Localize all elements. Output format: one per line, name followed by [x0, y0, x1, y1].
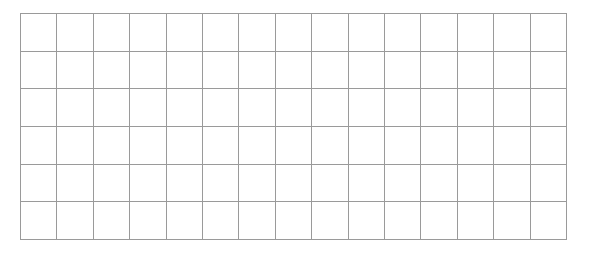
grid-cell: [130, 127, 166, 165]
grid-cell: [458, 165, 494, 203]
grid-cell: [276, 89, 312, 127]
grid-cell: [458, 89, 494, 127]
grid-cell: [57, 89, 93, 127]
grid-cell: [167, 89, 203, 127]
grid-cell: [167, 52, 203, 90]
grid-cell: [531, 202, 567, 240]
grid-cell: [276, 202, 312, 240]
grid-cell: [57, 202, 93, 240]
grid-cell: [276, 127, 312, 165]
grid-cell: [57, 52, 93, 90]
grid-cell: [494, 89, 530, 127]
grid-cell: [276, 165, 312, 203]
grid-cell: [94, 165, 130, 203]
grid-cell: [239, 52, 275, 90]
grid-cell: [130, 14, 166, 52]
grid-cell: [94, 127, 130, 165]
grid-cell: [94, 202, 130, 240]
grid-cell: [21, 202, 57, 240]
grid-cell: [21, 127, 57, 165]
grid-cell: [531, 52, 567, 90]
grid-cell: [312, 127, 348, 165]
grid-cell: [531, 165, 567, 203]
grid-cell: [276, 52, 312, 90]
grid-cell: [421, 127, 457, 165]
grid-cell: [94, 14, 130, 52]
grid-cell: [57, 14, 93, 52]
grid-cell: [203, 52, 239, 90]
grid-cell: [458, 127, 494, 165]
grid-cell: [21, 89, 57, 127]
grid-cell: [239, 127, 275, 165]
grid-cell: [130, 165, 166, 203]
grid-cell: [421, 165, 457, 203]
grid-cell: [421, 14, 457, 52]
grid-cell: [94, 89, 130, 127]
grid-cell: [239, 165, 275, 203]
grid-cell: [494, 52, 530, 90]
grid-cell: [57, 165, 93, 203]
grid-cell: [203, 165, 239, 203]
grid-cell: [421, 202, 457, 240]
grid-cell: [349, 14, 385, 52]
grid-cell: [312, 14, 348, 52]
grid-cell: [203, 89, 239, 127]
grid-cell: [458, 202, 494, 240]
grid-cell: [349, 52, 385, 90]
grid-cell: [312, 89, 348, 127]
grid-cell: [21, 52, 57, 90]
grid-cell: [57, 127, 93, 165]
grid-cell: [239, 202, 275, 240]
grid-cell: [385, 165, 421, 203]
grid-cell: [312, 52, 348, 90]
grid-cell: [385, 127, 421, 165]
empty-grid: [20, 13, 567, 240]
grid-cell: [385, 202, 421, 240]
grid-cell: [421, 89, 457, 127]
grid-cell: [203, 202, 239, 240]
grid-cell: [130, 202, 166, 240]
grid-cell: [458, 52, 494, 90]
grid-cell: [276, 14, 312, 52]
grid-cell: [349, 165, 385, 203]
grid-cell: [203, 14, 239, 52]
grid-cell: [203, 127, 239, 165]
grid-cell: [531, 14, 567, 52]
grid-cell: [167, 165, 203, 203]
grid-cell: [349, 202, 385, 240]
grid-cell: [167, 14, 203, 52]
grid-cell: [385, 52, 421, 90]
grid-cell: [349, 89, 385, 127]
grid-cell: [94, 52, 130, 90]
grid-cell: [349, 127, 385, 165]
grid-cell: [130, 52, 166, 90]
grid-cell: [458, 14, 494, 52]
grid-cell: [312, 165, 348, 203]
grid-cell: [494, 127, 530, 165]
grid-cell: [494, 14, 530, 52]
grid-cell: [21, 14, 57, 52]
grid-cell: [167, 202, 203, 240]
grid-cell: [312, 202, 348, 240]
grid-cell: [421, 52, 457, 90]
grid-cell: [531, 89, 567, 127]
grid-cell: [130, 89, 166, 127]
grid-cell: [239, 14, 275, 52]
grid-cell: [385, 14, 421, 52]
grid-cell: [167, 127, 203, 165]
grid-cell: [531, 127, 567, 165]
grid-cell: [21, 165, 57, 203]
grid-cell: [494, 202, 530, 240]
grid-cell: [494, 165, 530, 203]
grid-cell: [239, 89, 275, 127]
grid-cell: [385, 89, 421, 127]
